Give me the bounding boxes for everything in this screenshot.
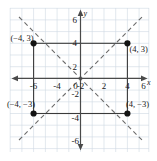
graph-canvas: x y -6 -4 -2 0 2 4 6 6 4 2 -2 -4 -6 (−4,… bbox=[0, 0, 157, 161]
x-tick-label-4: 4 bbox=[125, 81, 130, 91]
y-tick-label-neg2: -2 bbox=[72, 89, 80, 99]
y-tick-label-neg4: -4 bbox=[72, 113, 80, 123]
x-tick-label-neg4: -4 bbox=[53, 81, 61, 91]
y-tick-label-6: 6 bbox=[73, 15, 78, 25]
y-tick-label-4: 4 bbox=[73, 38, 78, 48]
y-tick-label-neg6: -6 bbox=[72, 136, 80, 146]
coordinate-plane-figure: x y -6 -4 -2 0 2 4 6 6 4 2 -2 -4 -6 (−4,… bbox=[0, 0, 157, 161]
point-label-top-right: (4, 3) bbox=[130, 44, 149, 54]
point-label-bottom-left: (−4, −3) bbox=[7, 99, 35, 109]
x-tick-label-neg6: -6 bbox=[30, 81, 38, 91]
data-point-bottom-left bbox=[30, 110, 36, 116]
x-axis-label: x bbox=[146, 78, 151, 87]
data-point-bottom-right bbox=[124, 110, 130, 116]
point-label-top-left: (−4, 3) bbox=[11, 33, 34, 43]
x-tick-label-6: 6 bbox=[141, 81, 146, 91]
y-axis-label: y bbox=[83, 9, 88, 18]
y-tick-label-2: 2 bbox=[73, 62, 78, 72]
x-tick-label-2: 2 bbox=[102, 81, 107, 91]
point-label-bottom-right: (4, −3) bbox=[126, 99, 149, 109]
